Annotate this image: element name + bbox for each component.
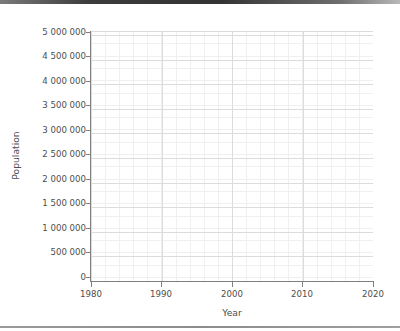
x-tick-1990: [161, 282, 162, 287]
plot-area[interactable]: [91, 31, 373, 281]
y-tick-8: [86, 81, 91, 82]
y-tick-label-6: 3 000 000: [42, 125, 86, 135]
y-axis-spine: [90, 31, 91, 282]
y-tick-label-7: 3 500 000: [42, 100, 86, 110]
x-tick-label-2020: 2020: [362, 289, 384, 299]
y-tick-label-10: 5 000 000: [42, 27, 86, 37]
y-tick-5: [86, 154, 91, 155]
x-tick-2000: [232, 282, 233, 287]
x-tick-label-1980: 1980: [80, 289, 102, 299]
y-tick-10: [86, 32, 91, 33]
y-tick-label-4: 2 000 000: [42, 174, 86, 184]
y-tick-label-0: 0: [81, 272, 86, 282]
y-tick-label-2: 1 000 000: [42, 223, 86, 233]
y-tick-0: [86, 277, 91, 278]
y-tick-9: [86, 56, 91, 57]
y-tick-3: [86, 203, 91, 204]
y-tick-label-8: 4 000 000: [42, 76, 86, 86]
screenshot-root: 0 500 000 1 000 000 1 500 000 2 000 000 …: [0, 0, 400, 331]
y-axis-title: Population: [10, 116, 21, 196]
y-tick-6: [86, 130, 91, 131]
y-tick-1: [86, 252, 91, 253]
x-tick-2010: [302, 282, 303, 287]
y-tick-label-1: 500 000: [50, 247, 86, 257]
x-tick-2020: [373, 282, 374, 287]
x-tick-1980: [91, 282, 92, 287]
x-tick-label-2010: 2010: [291, 289, 313, 299]
matplotlib-figure: 0 500 000 1 000 000 1 500 000 2 000 000 …: [0, 4, 400, 326]
x-tick-label-2000: 2000: [221, 289, 243, 299]
x-tick-label-1990: 1990: [150, 289, 172, 299]
grid-major: [91, 31, 373, 281]
y-tick-4: [86, 179, 91, 180]
y-tick-7: [86, 105, 91, 106]
y-tick-label-3: 1 500 000: [42, 198, 86, 208]
y-tick-label-9: 4 500 000: [42, 51, 86, 61]
y-tick-2: [86, 228, 91, 229]
y-tick-label-5: 2 500 000: [42, 149, 86, 159]
x-axis-title: Year: [222, 307, 241, 318]
